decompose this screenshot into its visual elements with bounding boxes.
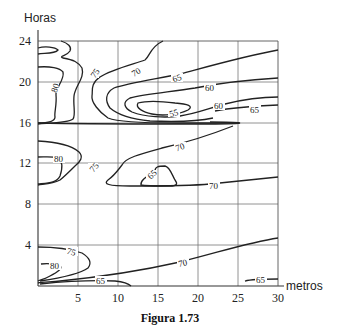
svg-text:70: 70 (209, 181, 219, 191)
svg-text:5: 5 (75, 291, 81, 305)
svg-text:65: 65 (145, 167, 159, 181)
svg-text:4: 4 (25, 238, 31, 252)
svg-text:20: 20 (19, 75, 31, 89)
svg-text:75: 75 (66, 246, 78, 258)
svg-text:15: 15 (152, 291, 164, 305)
svg-text:65: 65 (96, 276, 106, 286)
contour-chart: Horas metros 4 8 12 16 20 24 5 10 15 20 … (0, 0, 341, 331)
svg-text:24: 24 (19, 34, 31, 48)
x-axis-label: metros (286, 279, 323, 293)
svg-text:16: 16 (19, 116, 31, 130)
figure-caption: Figura 1.73 (141, 311, 200, 325)
y-axis-label: Horas (24, 11, 56, 25)
x-tick-labels: 5 10 15 20 25 30 (75, 291, 284, 305)
svg-text:65: 65 (250, 105, 260, 115)
svg-text:20: 20 (192, 291, 204, 305)
svg-text:65: 65 (256, 275, 266, 285)
svg-text:80: 80 (50, 261, 60, 271)
svg-text:25: 25 (232, 291, 244, 305)
svg-text:10: 10 (112, 291, 124, 305)
svg-text:30: 30 (272, 291, 284, 305)
svg-text:60: 60 (214, 101, 224, 111)
svg-text:8: 8 (25, 197, 31, 211)
svg-text:80: 80 (54, 154, 64, 164)
svg-text:60: 60 (205, 83, 215, 93)
svg-text:12: 12 (19, 156, 31, 170)
y-tick-labels: 4 8 12 16 20 24 (19, 34, 31, 252)
